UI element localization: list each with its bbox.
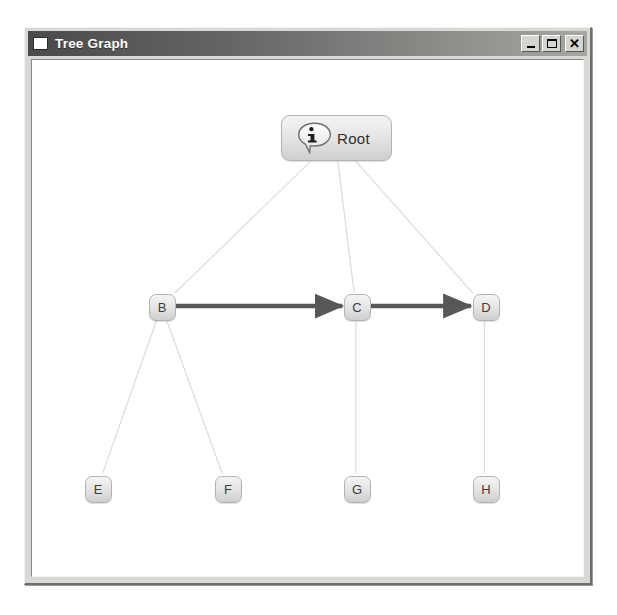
graph-node-B[interactable]: B <box>149 294 176 321</box>
window-square-icon <box>33 37 48 50</box>
graph-node-label-C: C <box>352 300 361 315</box>
graph-node-C[interactable]: C <box>344 294 371 321</box>
graph-node-label-root: Root <box>337 130 370 147</box>
graph-edge-B-F <box>166 319 222 473</box>
maximize-button[interactable] <box>542 35 561 52</box>
graph-edge-root-B <box>175 161 311 293</box>
tree-graph-window: Tree Graph ✕ <box>24 27 592 585</box>
graph-node-H[interactable]: H <box>473 476 500 503</box>
graph-node-label-F: F <box>224 482 232 497</box>
graph-node-label-D: D <box>481 300 490 315</box>
graph-node-label-E: E <box>94 482 103 497</box>
window-controls: ✕ <box>521 35 584 52</box>
graph-node-label-H: H <box>481 482 490 497</box>
maximize-icon <box>547 39 557 48</box>
graph-node-label-B: B <box>158 300 167 315</box>
graph-node-D[interactable]: D <box>473 294 500 321</box>
graph-canvas[interactable]: RootBCDEFGH <box>31 59 584 577</box>
info-bubble-icon <box>298 122 332 154</box>
minimize-button[interactable] <box>521 35 540 52</box>
window-title: Tree Graph <box>55 36 521 51</box>
window-titlebar[interactable]: Tree Graph ✕ <box>28 31 587 56</box>
graph-node-root[interactable]: Root <box>281 115 392 161</box>
graph-edge-B-E <box>102 319 156 473</box>
graph-node-label-G: G <box>352 482 362 497</box>
minimize-icon <box>527 46 535 48</box>
graph-node-E[interactable]: E <box>85 476 112 503</box>
graph-edge-root-C <box>338 161 354 293</box>
close-button[interactable]: ✕ <box>565 35 584 52</box>
close-icon: ✕ <box>569 37 580 50</box>
graph-edge-root-D <box>355 161 472 293</box>
graph-node-G[interactable]: G <box>344 476 371 503</box>
graph-node-F[interactable]: F <box>215 476 242 503</box>
screenshot-root: Tree Graph ✕ <box>0 0 617 615</box>
